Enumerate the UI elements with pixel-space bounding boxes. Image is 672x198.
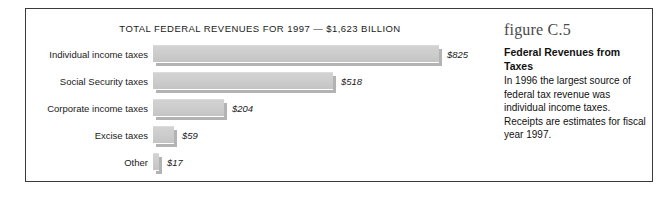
caption-title: Federal Revenues from Taxes <box>504 46 646 73</box>
bar-row: Social Security taxes $518 <box>26 70 494 97</box>
bar-individual-income-taxes[interactable] <box>153 45 439 62</box>
bar-row: Other $17 <box>26 151 494 178</box>
bar-value-label: $825 <box>447 49 468 60</box>
figure-number: figure C.5 <box>504 21 646 39</box>
bar-category-label: Other <box>26 157 148 168</box>
bar-track: $17 <box>153 153 494 172</box>
bar-category-label: Corporate income taxes <box>26 103 148 114</box>
figure-frame: TOTAL FEDERAL REVENUES FOR 1997 — $1,623… <box>25 8 653 182</box>
bar-other[interactable] <box>153 153 159 170</box>
bar-value-label: $17 <box>167 157 183 168</box>
bar-category-label: Excise taxes <box>26 130 148 141</box>
bar-track: $59 <box>153 126 494 145</box>
chart-title: TOTAL FEDERAL REVENUES FOR 1997 — $1,623… <box>26 23 494 34</box>
bar-social-security-taxes[interactable] <box>153 72 333 89</box>
bar-row: Corporate income taxes $204 <box>26 97 494 124</box>
bar-track: $204 <box>153 99 494 118</box>
bar-category-label: Social Security taxes <box>26 76 148 87</box>
bar-track: $518 <box>153 72 494 91</box>
bar-value-label: $59 <box>182 130 198 141</box>
bar-category-label: Individual income taxes <box>26 49 148 60</box>
bar-value-label: $518 <box>341 76 362 87</box>
bar-excise-taxes[interactable] <box>153 126 174 143</box>
bar-row: Excise taxes $59 <box>26 124 494 151</box>
bar-corporate-income-taxes[interactable] <box>153 99 224 116</box>
bar-list: Individual income taxes $825 Social Secu… <box>26 43 494 178</box>
figure-container: TOTAL FEDERAL REVENUES FOR 1997 — $1,623… <box>0 0 672 198</box>
bar-chart: TOTAL FEDERAL REVENUES FOR 1997 — $1,623… <box>26 9 494 183</box>
bar-track: $825 <box>153 45 494 64</box>
bar-value-label: $204 <box>232 103 253 114</box>
figure-caption: figure C.5 Federal Revenues from Taxes I… <box>504 21 646 142</box>
bar-row: Individual income taxes $825 <box>26 43 494 70</box>
caption-body: In 1996 the largest source of federal ta… <box>504 74 646 142</box>
